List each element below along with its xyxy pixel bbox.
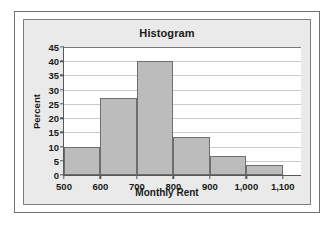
y-tick-label: 15 — [48, 127, 59, 138]
gridline — [64, 47, 301, 48]
y-axis-title: Percent — [29, 72, 43, 152]
y-tick-label: 30 — [48, 84, 59, 95]
figure-frame: Histogram Percent 0510152025303540455006… — [14, 11, 320, 213]
chart-title: Histogram — [24, 27, 310, 39]
y-tick-mark — [60, 117, 64, 118]
x-tick-mark — [100, 175, 101, 179]
y-tick-mark — [60, 103, 64, 104]
histogram-bar — [173, 137, 209, 175]
y-tick-mark — [60, 61, 64, 62]
gridline — [64, 61, 301, 62]
plot-area: 0510152025303540455006007008009001,0001,… — [63, 47, 301, 176]
y-tick-label: 10 — [48, 141, 59, 152]
gridline — [64, 90, 301, 91]
histogram-bar — [210, 156, 246, 175]
y-tick-label: 40 — [48, 56, 59, 67]
x-tick-mark — [209, 175, 210, 179]
y-tick-mark — [60, 132, 64, 133]
x-tick-mark — [63, 175, 64, 179]
x-tick-mark — [246, 175, 247, 179]
gridline — [64, 75, 301, 76]
x-tick-mark — [282, 175, 283, 179]
y-tick-label: 0 — [54, 170, 59, 181]
y-tick-label: 20 — [48, 113, 59, 124]
y-tick-mark — [60, 89, 64, 90]
y-tick-label: 35 — [48, 70, 59, 81]
y-tick-label: 5 — [54, 155, 59, 166]
y-tick-mark — [60, 75, 64, 76]
histogram-bar — [246, 165, 282, 175]
y-tick-mark — [60, 46, 64, 47]
y-tick-label: 45 — [48, 42, 59, 53]
histogram-bar — [137, 61, 173, 175]
histogram-bar — [100, 98, 136, 175]
x-axis-title: Monthly Rent — [24, 187, 310, 198]
chart-panel: Histogram Percent 0510152025303540455006… — [23, 19, 311, 205]
histogram-bar — [64, 147, 100, 175]
x-tick-mark — [173, 175, 174, 179]
y-tick-label: 25 — [48, 98, 59, 109]
x-tick-mark — [136, 175, 137, 179]
plot-inner: 0510152025303540455006007008009001,0001,… — [64, 47, 301, 175]
